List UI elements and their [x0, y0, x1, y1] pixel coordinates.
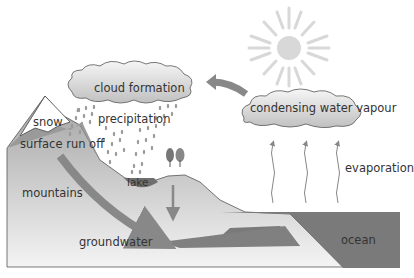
- cloud-formation-label: cloud formation: [94, 83, 185, 95]
- evaporation-label: evaporation: [345, 163, 414, 175]
- evaporation-arrows: [272, 143, 340, 203]
- snow-label: snow: [33, 117, 63, 129]
- ocean-label: ocean: [341, 235, 376, 247]
- tree-icon: [166, 148, 185, 167]
- groundwater-label: groundwater: [79, 237, 152, 249]
- mountains-label: mountains: [22, 188, 83, 200]
- condensing-label: condensing water vapour: [250, 103, 396, 115]
- surface-run-off-label: surface run off: [20, 139, 104, 151]
- sun-icon: [249, 8, 329, 86]
- lake-label: lake: [127, 177, 149, 188]
- precipitation-label: precipitation: [98, 114, 170, 126]
- arrow-icon: [212, 82, 246, 94]
